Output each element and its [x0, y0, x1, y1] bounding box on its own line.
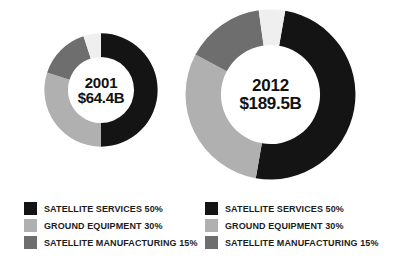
donut-2001-slices — [44, 33, 157, 146]
donut-2001-svg — [42, 31, 160, 149]
donut-2012-rings: 2012 $189.5B — [182, 6, 359, 183]
legend-swatch-satellite-services — [205, 202, 218, 215]
donut-slice — [101, 33, 158, 146]
donut-slice — [47, 36, 91, 80]
legend-item: GROUND EQUIPMENT 30% — [205, 217, 379, 234]
legend-swatch-satellite-manufacturing — [24, 236, 37, 249]
donut-2012-svg — [182, 6, 359, 183]
donut-slice — [186, 55, 262, 179]
legend-label-satellite-manufacturing: SATELLITE MANUFACTURING 15% — [225, 238, 379, 248]
donut-slice — [44, 72, 101, 146]
legend-item: SATELLITE SERVICES 50% — [24, 200, 198, 217]
legend-label-ground-equipment: GROUND EQUIPMENT 30% — [225, 221, 344, 231]
donut-chart-2012: 2012 $189.5B — [182, 6, 359, 183]
legend-swatch-satellite-services — [24, 202, 37, 215]
legend-label-satellite-services: SATELLITE SERVICES 50% — [44, 204, 163, 214]
legend-label-satellite-services: SATELLITE SERVICES 50% — [225, 204, 344, 214]
donut-chart-2001: 2001 $64.4B — [42, 31, 160, 149]
legend-label-ground-equipment: GROUND EQUIPMENT 30% — [44, 221, 163, 231]
legend-swatch-ground-equipment — [24, 219, 37, 232]
legend-2012: SATELLITE SERVICES 50% GROUND EQUIPMENT … — [205, 200, 379, 251]
legend-item: SATELLITE MANUFACTURING 15% — [24, 234, 198, 251]
legend-swatch-satellite-manufacturing — [205, 236, 218, 249]
satellite-industry-revenue-donut-figure: 2001 $64.4B 2012 $189.5B SATELLITE SERVI… — [0, 0, 403, 266]
legend-label-satellite-manufacturing: SATELLITE MANUFACTURING 15% — [44, 238, 198, 248]
legend-2001: SATELLITE SERVICES 50% GROUND EQUIPMENT … — [24, 200, 198, 251]
donut-2001-rings: 2001 $64.4B — [42, 31, 160, 149]
legend-item: SATELLITE MANUFACTURING 15% — [205, 234, 379, 251]
legend-item: GROUND EQUIPMENT 30% — [24, 217, 198, 234]
legend-item: SATELLITE SERVICES 50% — [205, 200, 379, 217]
donut-2012-slices — [186, 10, 356, 180]
legend-swatch-ground-equipment — [205, 219, 218, 232]
